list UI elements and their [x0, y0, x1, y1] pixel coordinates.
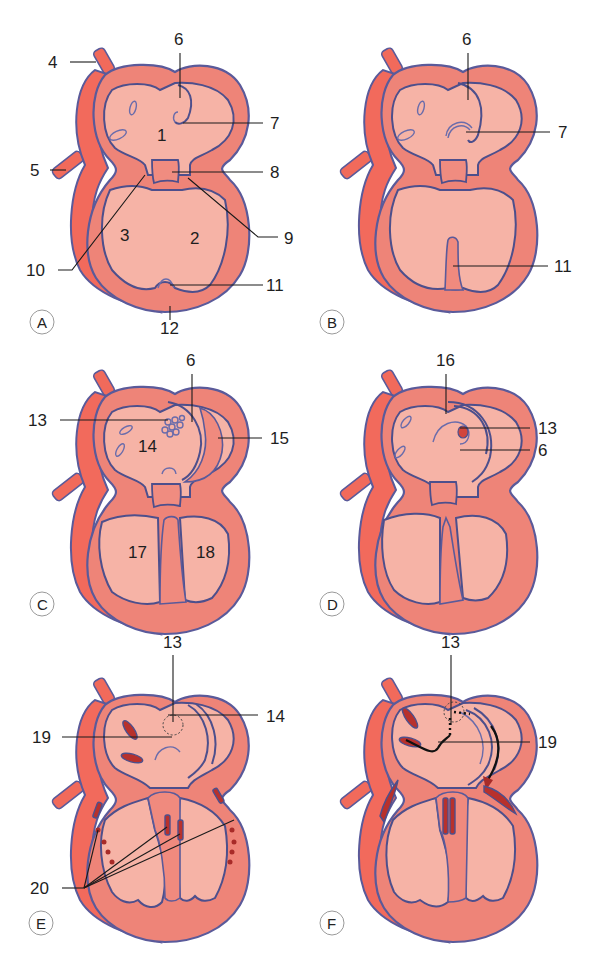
panel-letter-a: A — [37, 314, 47, 331]
panel-a: 1 2 3 4 5 6 7 8 9 10 11 12 A — [26, 30, 293, 338]
panel-f: 13 19 F — [320, 633, 557, 942]
label-16: 16 — [436, 351, 455, 370]
chamber-label-18: 18 — [196, 543, 215, 562]
label-6: 6 — [538, 441, 547, 460]
label-6: 6 — [174, 30, 183, 49]
label-6: 6 — [462, 30, 471, 49]
label-9: 9 — [284, 229, 293, 248]
chamber-label-3: 3 — [120, 226, 129, 245]
chamber-label-17: 17 — [128, 543, 147, 562]
label-7: 7 — [270, 114, 279, 133]
label-11: 11 — [266, 276, 284, 295]
label-19: 19 — [32, 728, 51, 747]
panel-letter-f: F — [327, 915, 336, 932]
chamber-label-14: 14 — [138, 437, 157, 456]
label-13: 13 — [441, 633, 460, 652]
label-11: 11 — [554, 257, 572, 276]
panel-c: 6 13 15 14 17 18 C — [28, 351, 289, 634]
label-10: 10 — [26, 261, 45, 280]
label-13: 13 — [538, 419, 557, 438]
panel-letter-c: C — [37, 596, 48, 613]
label-19: 19 — [538, 733, 557, 752]
panel-b: 6 7 11 B — [320, 30, 572, 334]
chamber-label-2: 2 — [190, 229, 199, 248]
label-4: 4 — [48, 53, 57, 72]
heart-septation-figure: 1 2 3 4 5 6 7 8 9 10 11 12 A — [0, 0, 599, 971]
panel-d: 16 13 6 D — [320, 351, 557, 634]
panel-letter-e: E — [36, 915, 46, 932]
label-12: 12 — [160, 319, 179, 338]
label-13: 13 — [163, 633, 182, 652]
label-8: 8 — [270, 163, 279, 182]
label-7: 7 — [558, 123, 567, 142]
chamber-label-1: 1 — [157, 126, 166, 145]
panel-e: 13 14 19 20 E — [29, 633, 285, 942]
label-20: 20 — [30, 879, 49, 898]
label-6: 6 — [186, 351, 195, 370]
label-15: 15 — [270, 429, 289, 448]
panel-letter-b: B — [327, 314, 337, 331]
label-14: 14 — [266, 707, 285, 726]
panel-letter-d: D — [327, 596, 338, 613]
label-13: 13 — [28, 411, 47, 430]
label-5: 5 — [30, 161, 39, 180]
